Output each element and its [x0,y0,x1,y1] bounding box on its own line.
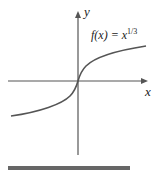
graph-canvas [0,0,162,174]
y-axis-arrow-icon [75,11,81,18]
x-axis-label: x [145,85,151,98]
y-axis-label: y [84,5,90,18]
function-label-exponent: 1/3 [127,27,137,36]
bottom-divider-bar [8,166,130,170]
function-label-base: f(x) = x [91,28,127,42]
function-label: f(x) = x1/3 [91,28,137,41]
